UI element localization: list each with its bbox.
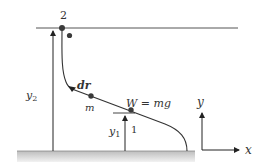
gravity-work-diagram: 2 dr m W = mg 1 y2 y1 y x — [0, 0, 266, 166]
dr-direction-arrow-icon — [68, 86, 76, 92]
small-reference-dot — [67, 33, 72, 38]
point-2-dot — [59, 25, 65, 31]
axis-x-label: x — [245, 143, 252, 157]
mass-dot — [88, 93, 93, 98]
label-dr: dr — [77, 79, 92, 92]
ground — [17, 151, 195, 162]
label-y2: y2 — [25, 89, 37, 103]
label-mass: m — [85, 102, 94, 113]
axis-y-label: y — [196, 95, 204, 109]
label-weight: W = mg — [126, 97, 171, 110]
label-y1: y1 — [108, 125, 120, 139]
label-point-1: 1 — [131, 124, 137, 135]
label-point-2: 2 — [60, 9, 67, 22]
